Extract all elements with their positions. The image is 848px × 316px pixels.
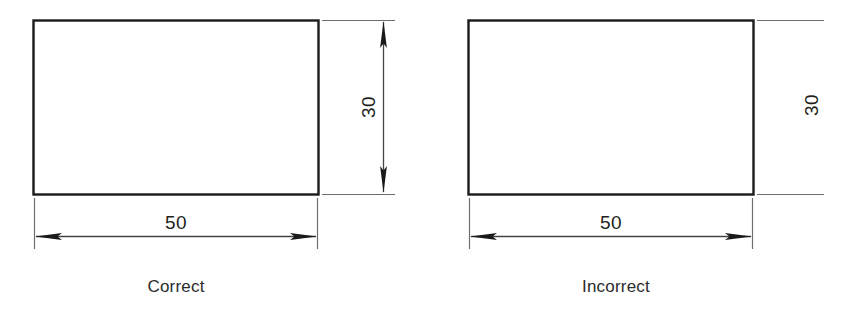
vertical-dimension-value: 30 [358,96,379,118]
panel-incorrect: 30 50 Incorrect [469,21,825,297]
panel-correct: 30 50 Correct [34,21,396,297]
dimensioning-comparison-drawing: 30 50 Correct 30 [0,0,848,316]
horizontal-dimension-value: 50 [600,212,622,233]
panel-caption-correct: Correct [147,277,204,296]
vertical-dimension-value: 30 [801,94,822,116]
part-outline-rectangle [469,21,754,195]
figure-canvas: 30 50 Correct 30 [0,0,848,316]
part-outline-rectangle [34,21,319,195]
horizontal-dimension-value: 50 [165,212,187,233]
panel-caption-incorrect: Incorrect [582,277,650,296]
